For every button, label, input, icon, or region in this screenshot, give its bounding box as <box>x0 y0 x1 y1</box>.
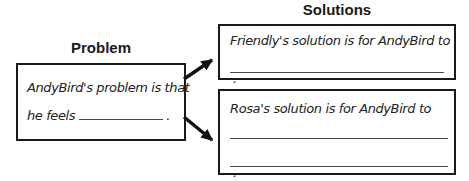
problem-text-line1: AndyBird's problem is that <box>27 79 178 97</box>
solutions-title: Solutions <box>218 1 456 18</box>
arrow-problem-to-friendly-solution <box>184 60 212 79</box>
problem-period: . <box>166 110 170 122</box>
problem-text-line2: he feels. <box>27 107 178 125</box>
problem-box: AndyBird's problem is that he feels. <box>16 63 186 141</box>
rosa-solution-box: Rosa's solution is for AndyBird to . <box>218 89 456 175</box>
rosa-blank-line-2 <box>230 154 448 167</box>
friendly-period: . <box>233 73 237 85</box>
rosa-period: . <box>233 167 237 179</box>
rosa-blank-row-2: . <box>230 154 444 179</box>
problem-title: Problem <box>16 39 186 56</box>
problem-text-line2-prefix: he feels <box>27 108 75 123</box>
arrow-problem-to-rosa-solution <box>184 117 212 140</box>
rosa-blank-line-1 <box>230 126 448 139</box>
friendly-blank-row: . <box>230 60 444 85</box>
friendly-solution-box: Friendly's solution is for AndyBird to . <box>218 24 456 80</box>
friendly-solution-text: Friendly's solution is for AndyBird to <box>230 32 444 50</box>
rosa-blank-row-1 <box>230 126 444 139</box>
friendly-blank-line <box>230 60 444 73</box>
problem-blank-line <box>79 107 163 120</box>
rosa-solution-text: Rosa's solution is for AndyBird to <box>230 100 444 118</box>
worksheet-diagram: Problem AndyBird's problem is that he fe… <box>0 0 469 181</box>
